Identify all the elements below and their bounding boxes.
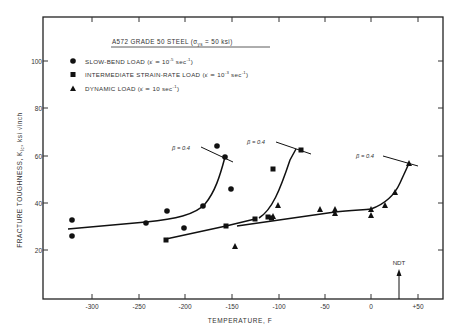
legend-slow-bend: SLOW-BEND LOAD (ε̇ ≃ 10-5 sec-1) — [85, 57, 193, 65]
triangle-marker-icon — [70, 86, 76, 92]
svg-text:β = 0.4: β = 0.4 — [171, 145, 190, 151]
x-axis-title: TEMPERATURE, F — [208, 317, 273, 324]
svg-text:100: 100 — [31, 58, 42, 65]
svg-text:-150: -150 — [225, 303, 238, 310]
beta-labels: β = 0.4 β = 0.4 β = 0.4 — [171, 139, 374, 159]
svg-text:+50: +50 — [412, 303, 423, 310]
ndt-marker: NDT — [393, 259, 406, 299]
y-axis-title: FRACTURE TOUGHNESS, KIc, ksi √inch — [16, 112, 25, 247]
svg-text:0: 0 — [369, 303, 373, 310]
ndt-label: NDT — [393, 259, 406, 266]
y-tick-labels: 20 40 60 80 100 — [31, 58, 42, 254]
chart-title: A572 GRADE 50 STEEL (σys = 50 ksi) — [112, 38, 233, 47]
intermediate-lower-curve — [166, 219, 255, 239]
svg-text:60: 60 — [35, 153, 43, 160]
fracture-toughness-chart: -300 -250 -200 -150 -100 -50 0 +50 20 40… — [0, 0, 454, 333]
fit-curves — [68, 149, 409, 239]
dynamic-curve — [237, 163, 409, 226]
square-marker-icon — [71, 72, 76, 77]
svg-text:80: 80 — [35, 105, 43, 112]
svg-text:40: 40 — [35, 200, 43, 207]
arrow-up-icon — [397, 269, 402, 276]
circle-marker-icon — [70, 58, 76, 64]
legend-dynamic: DYNAMIC LOAD (ε̇ ≃ 10 sec-1) — [85, 84, 179, 92]
svg-text:-100: -100 — [272, 303, 285, 310]
svg-text:-200: -200 — [178, 303, 191, 310]
dynamic-points — [232, 160, 412, 249]
svg-text:20: 20 — [35, 247, 43, 254]
x-tick-labels: -300 -250 -200 -150 -100 -50 0 +50 — [85, 303, 423, 310]
svg-text:-50: -50 — [320, 303, 330, 310]
slow-bend-curve — [68, 157, 225, 229]
legend: SLOW-BEND LOAD (ε̇ ≃ 10-5 sec-1) INTERME… — [70, 57, 248, 92]
legend-intermediate: INTERMEDIATE STRAIN-RATE LOAD (ε̇ ≃ 10-3… — [85, 70, 248, 78]
svg-text:β = 0.4: β = 0.4 — [246, 139, 265, 145]
svg-text:β = 0.4: β = 0.4 — [355, 153, 374, 159]
beta-lines — [201, 142, 418, 166]
svg-text:-250: -250 — [132, 303, 145, 310]
svg-text:-300: -300 — [85, 303, 98, 310]
slow-bend-points — [69, 143, 234, 239]
